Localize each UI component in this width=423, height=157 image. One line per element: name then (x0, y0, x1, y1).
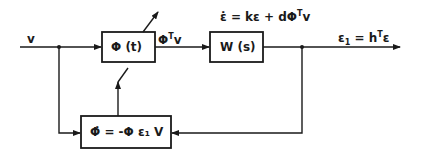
state-eq-epsilon-dot: ε̇ (220, 10, 227, 24)
plant-block-label: W (s) (220, 41, 256, 53)
feedback-line (172, 47, 302, 133)
output-junction-dot (300, 45, 304, 49)
output-label: ε1 = hTε (338, 31, 389, 47)
input-branch-line (59, 47, 80, 133)
diagram-lines (0, 0, 423, 157)
block-diagram: v Φ (t) ΦTv W (s) ε̇ = kε + dΦTv ε1 = hT… (0, 0, 423, 157)
state-eq-body: = kε + dΦ (231, 10, 297, 24)
input-junction-dot (57, 45, 61, 49)
adapt-block-label: Φ̇ = -Φ ε₁ V (90, 126, 163, 138)
output-equals-h: = h (350, 31, 377, 45)
adjust-diagonal-upper (143, 12, 158, 32)
phi-output-v: v (174, 33, 182, 47)
phi-output-main: Φ (158, 33, 168, 47)
adjust-diagonal-lower (118, 68, 128, 82)
state-eq-v: v (302, 10, 310, 24)
input-label: v (27, 33, 35, 45)
phi-output-label: ΦTv (158, 33, 182, 46)
phi-block-label: Φ (t) (111, 41, 142, 53)
state-equation-label: ε̇ = kε + dΦTv (220, 10, 310, 23)
output-epsilon: ε (338, 31, 345, 45)
output-epsilon-end: ε (383, 31, 390, 45)
